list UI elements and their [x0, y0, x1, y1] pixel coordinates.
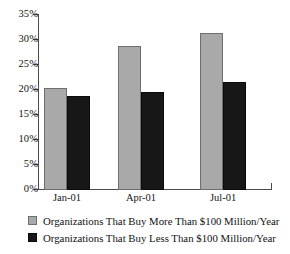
x-axis-label-jan-01: Jan-01 — [38, 192, 96, 204]
legend-item-more: Organizations That Buy More Than $100 Mi… — [28, 212, 278, 229]
gray-swatch-icon — [28, 216, 37, 225]
bar-apr-01-less — [141, 92, 164, 190]
y-axis-label-25: 25% — [18, 59, 38, 70]
legend-label-less: Organizations That Buy Less Than $100 Mi… — [43, 232, 276, 244]
chart-legend: Organizations That Buy More Than $100 Mi… — [28, 212, 278, 246]
y-axis-label-35: 35% — [18, 9, 38, 20]
bar-jul-01-more — [200, 33, 223, 190]
legend-item-less: Organizations That Buy Less Than $100 Mi… — [28, 229, 278, 246]
y-axis-label-15: 15% — [18, 109, 38, 120]
x-axis-label-jul-01: Jul-01 — [194, 192, 252, 204]
y-axis-label-30: 30% — [18, 34, 38, 45]
y-axis-label-20: 20% — [18, 84, 38, 95]
legend-label-more: Organizations That Buy More Than $100 Mi… — [43, 215, 279, 227]
y-axis-label-10: 10% — [18, 134, 38, 145]
bar-apr-01-more — [118, 46, 141, 190]
x-axis-end-tick — [271, 183, 272, 190]
bar-jul-01-less — [223, 82, 246, 190]
y-axis-label-5: 5% — [24, 159, 38, 170]
bar-chart: 35% 30% 25% 20% 15% 10% 5% 0% Jan-01 Apr… — [0, 0, 290, 254]
bar-jan-01-more — [44, 88, 67, 190]
bar-jan-01-less — [67, 96, 90, 190]
black-swatch-icon — [28, 233, 37, 242]
y-axis-label-0: 0% — [24, 184, 38, 195]
x-axis-label-apr-01: Apr-01 — [112, 192, 170, 204]
